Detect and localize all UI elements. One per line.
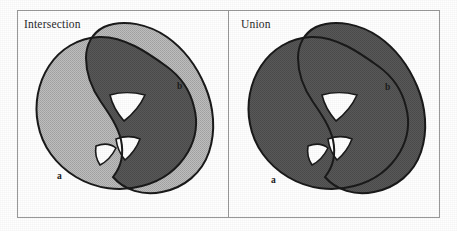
panel-union [229,10,440,217]
shape-label-b-union: b [385,83,390,93]
shape-label-b-intersection: b [177,82,182,92]
figure-canvas [0,0,457,231]
shape-label-a-union: a [271,176,276,186]
panel-title-intersection: Intersection [24,19,81,31]
shape-label-a-intersection: a [57,172,62,182]
set-operations-figure: Intersection Union a b a b [0,0,457,231]
panel-intersection [17,10,228,217]
panel-title-union: Union [241,19,271,31]
